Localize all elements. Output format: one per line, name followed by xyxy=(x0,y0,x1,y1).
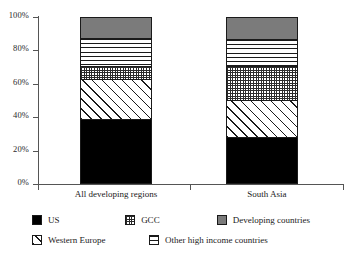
segment-gcc: 21% xyxy=(227,66,297,101)
legend-item-other-high-income-countries: Other high income countries xyxy=(149,235,309,245)
legend-swatch-us-icon xyxy=(32,215,42,225)
x-tick-left xyxy=(38,185,39,190)
segment-developing-countries: 13% xyxy=(227,18,297,39)
legend-label: GCC xyxy=(141,216,160,225)
chart-legend: US GCC Developing countries Western Euro… xyxy=(32,210,344,250)
legend-swatch-other-high-income-countries-icon xyxy=(149,235,159,245)
legend-item-western-europe: Western Europe xyxy=(32,235,149,245)
stacked-bar-chart: 100% 80% 60% 40% 20% 0% 12% 17% 8% xyxy=(0,0,352,261)
legend-row: US GCC Developing countries xyxy=(32,210,344,230)
segment-us: 39% xyxy=(81,119,151,183)
legend-label: US xyxy=(48,216,60,225)
y-tick-label-0: 0% xyxy=(17,177,29,187)
segment-western-europe: 24% xyxy=(81,79,151,119)
x-tick-right xyxy=(343,185,344,190)
bar-stack: 12% 17% 8% 24% 39% xyxy=(81,18,151,183)
legend-swatch-developing-countries-icon xyxy=(217,215,227,225)
category-label-south-asia: South Asia xyxy=(192,189,342,199)
plot-area: 12% 17% 8% 24% 39% 13% xyxy=(38,17,344,184)
y-tick-label-20: 20% xyxy=(13,144,29,154)
segment-developing-countries: 12% xyxy=(81,18,151,38)
x-axis-line xyxy=(38,184,344,185)
legend-item-developing-countries: Developing countries xyxy=(217,215,344,225)
bar-south-asia: 13% 16% 21% 22% 28% xyxy=(226,17,298,184)
legend-swatch-gcc-icon xyxy=(125,215,135,225)
legend-label: Developing countries xyxy=(233,216,310,225)
bar-all-developing-regions: 12% 17% 8% 24% 39% xyxy=(80,17,152,184)
legend-label: Western Europe xyxy=(48,236,106,245)
legend-item-us: US xyxy=(32,215,125,225)
legend-item-gcc: GCC xyxy=(125,215,217,225)
segment-other-high-income-countries: 16% xyxy=(227,39,297,65)
y-tick-label-40: 40% xyxy=(13,110,29,120)
y-tick-label-60: 60% xyxy=(13,77,29,87)
segment-us: 28% xyxy=(227,137,297,183)
y-tick-label-80: 80% xyxy=(13,43,29,53)
legend-swatch-western-europe-icon xyxy=(32,235,42,245)
segment-other-high-income-countries: 17% xyxy=(81,38,151,66)
y-tick-label-100: 100% xyxy=(9,10,29,20)
bar-stack: 13% 16% 21% 22% 28% xyxy=(227,18,297,183)
segment-gcc: 8% xyxy=(81,66,151,79)
legend-row: Western Europe Other high income countri… xyxy=(32,230,344,250)
category-label-all-developing-regions: All developing regions xyxy=(41,189,191,199)
legend-label: Other high income countries xyxy=(165,236,268,245)
segment-western-europe: 22% xyxy=(227,100,297,136)
